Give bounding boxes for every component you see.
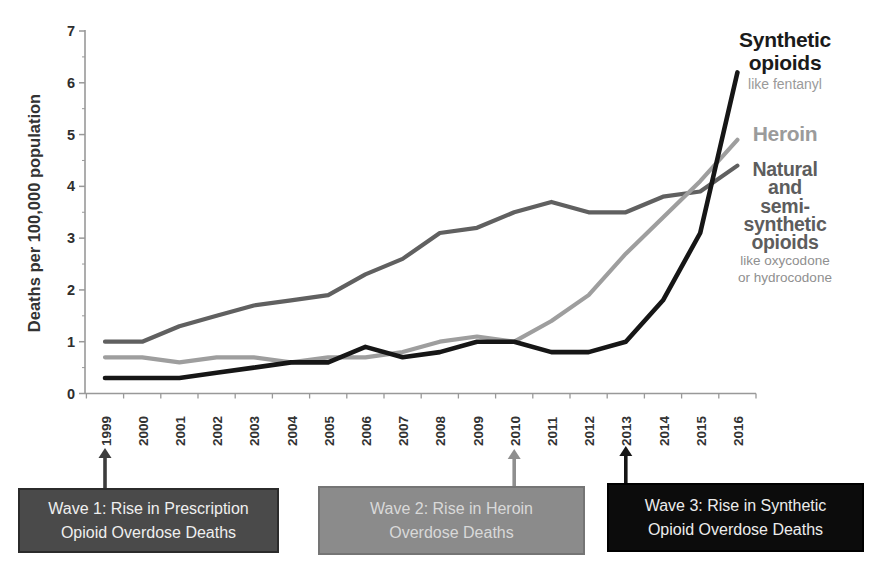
y-tick-label: 5 [67,127,75,143]
y-tick-label: 7 [67,23,75,39]
wave1-annotation-box: Wave 1: Rise in Prescription Opioid Over… [18,488,279,553]
x-tick-label-year: 2000 [136,416,151,446]
wave1-arrow-head [99,448,112,458]
x-tick-label-year: 2003 [247,415,262,446]
y-axis-title: Deaths per 100,000 population [25,94,43,332]
wave2-label: Wave 2: Rise in Heroin Overdose Deaths [352,497,552,543]
y-tick-label: 0 [67,386,75,402]
wave3-label: Wave 3: Rise in Synthetic Opioid Overdos… [628,494,844,540]
x-tick-label-year: 2006 [359,415,374,446]
wave2-annotation-box: Wave 2: Rise in Heroin Overdose Deaths [318,486,585,555]
x-tick-label-year: 2013 [619,415,634,446]
legend-heroin-line1: Heroin [710,122,860,146]
legend-synthetic-line2: opioids [710,51,860,74]
y-tick-label: 4 [67,178,75,194]
x-tick-label-year: 2009 [471,416,486,446]
wave3-arrow-head [619,446,632,456]
legend-natural-semisynthetic-opioids: Natural and semi- synthetic opioids like… [710,160,860,287]
x-tick-label-year: 2007 [396,416,411,446]
wave1-label: Wave 1: Rise in Prescription Opioid Over… [30,497,268,543]
x-tick-label-year: 1999 [99,416,114,446]
x-tick-label-year: 2010 [508,416,523,446]
x-tick-label-year: 2005 [322,415,337,446]
legend-natural-line2: and [710,178,860,196]
y-tick-label: 6 [67,75,75,91]
x-tick-label-year: 2016 [731,415,746,446]
wave2-arrow-head [508,449,521,459]
legend-natural-line5: opioids [710,233,860,251]
series-line-synthetic-opioids [105,72,737,378]
x-tick-label-year: 2014 [657,415,672,446]
legend-synthetic-opioids: Synthetic opioids like fentanyl [710,28,860,93]
y-tick-label: 2 [67,282,75,298]
x-tick-label-year: 2015 [694,415,709,446]
series-line-heroin [105,140,737,363]
wave3-annotation-box: Wave 3: Rise in Synthetic Opioid Overdos… [607,483,864,552]
opioid-overdose-waves-chart: 0123456719992000200120022003200420052006… [0,0,875,571]
x-tick-label-year: 2011 [545,416,560,446]
legend-synthetic-note: like fentanyl [710,77,860,92]
x-tick-label-year: 2004 [285,415,300,446]
legend-heroin: Heroin [710,122,860,146]
x-tick-label-year: 2001 [173,415,188,446]
x-tick-label-year: 2012 [582,416,597,446]
legend-synthetic-line1: Synthetic [710,28,860,51]
y-tick-label: 1 [67,334,75,350]
y-tick-label: 3 [67,230,75,246]
legend-natural-note-line2: or hydrocodone [710,269,860,287]
x-tick-label-year: 2002 [210,416,225,446]
series-line-natural-and-semi-synthetic-opioids [105,166,737,342]
legend-natural-note-line1: like oxycodone [710,252,860,270]
x-tick-label-year: 2008 [433,415,448,446]
